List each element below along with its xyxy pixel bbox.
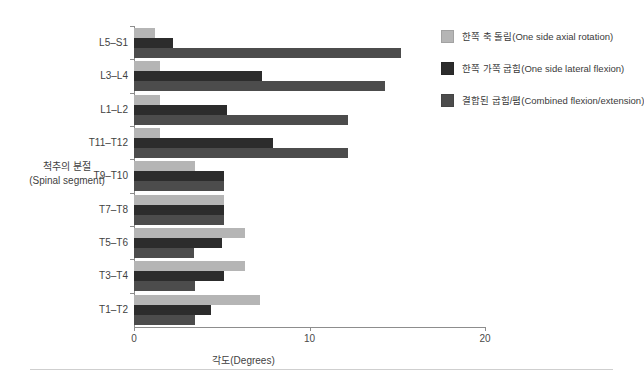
legend-label: 한쪽 축 돌림(One side axial rotation) — [462, 30, 613, 43]
bar — [134, 28, 155, 38]
y-axis-category-label: L1–L2 — [58, 104, 128, 115]
legend-label: 결합된 굽힘/폄(Combined flexion/extension) — [462, 94, 644, 107]
bar — [134, 161, 195, 171]
y-axis-tick — [130, 259, 134, 260]
bar — [134, 295, 260, 305]
bar-group — [134, 95, 429, 128]
legend-item: 한쪽 축 돌림(One side axial rotation) — [441, 30, 641, 43]
y-axis-tick — [130, 126, 134, 127]
bar — [134, 205, 224, 215]
legend-label: 한쪽 가쪽 굽힘(One side lateral flexion) — [462, 62, 624, 75]
bar — [134, 181, 224, 191]
bar-group — [134, 261, 429, 294]
y-axis-category-label: L5–S1 — [58, 37, 128, 48]
bar — [134, 315, 195, 325]
bar — [134, 105, 227, 115]
bar — [134, 115, 348, 125]
y-axis-category-label: T7–T8 — [58, 204, 128, 215]
y-axis-tick — [130, 293, 134, 294]
bar-group — [134, 128, 429, 161]
x-axis-tick-label: 0 — [119, 333, 149, 344]
bar-group — [134, 195, 429, 228]
y-axis-category-label: T3–T4 — [58, 270, 128, 281]
bar — [134, 195, 224, 205]
bar-group — [134, 28, 429, 61]
bar — [134, 238, 222, 248]
x-axis-tick — [134, 327, 135, 331]
bar — [134, 215, 224, 225]
x-axis-tick — [310, 327, 311, 331]
bar — [134, 171, 224, 181]
x-axis-tick-label: 20 — [470, 333, 500, 344]
plot-area — [134, 26, 429, 326]
bar-group — [134, 161, 429, 194]
legend-swatch — [441, 30, 454, 43]
y-axis-tick — [130, 226, 134, 227]
bar-group — [134, 61, 429, 94]
x-axis-title: 각도(Degrees) — [0, 352, 643, 367]
bar — [134, 228, 245, 238]
bottom-divider — [30, 369, 613, 370]
bar — [134, 281, 195, 291]
bar — [134, 271, 224, 281]
x-axis-tick — [485, 327, 486, 331]
bar — [134, 138, 273, 148]
y-axis-tick — [130, 59, 134, 60]
y-axis-category-label: T11–T12 — [58, 137, 128, 148]
bar — [134, 81, 385, 91]
bar — [134, 71, 262, 81]
y-axis-category-label: T5–T6 — [58, 237, 128, 248]
bar — [134, 61, 160, 71]
y-axis-category-label: L3–L4 — [58, 70, 128, 81]
legend-swatch — [441, 62, 454, 75]
legend-item: 한쪽 가쪽 굽힘(One side lateral flexion) — [441, 62, 641, 75]
y-axis-tick — [130, 93, 134, 94]
bar — [134, 48, 401, 58]
y-axis-category-label: T1–T2 — [58, 304, 128, 315]
bar-group — [134, 228, 429, 261]
bar-group — [134, 295, 429, 328]
legend-item: 결합된 굽힘/폄(Combined flexion/extension) — [441, 94, 641, 107]
bar — [134, 38, 173, 48]
y-axis-tick — [130, 26, 134, 27]
bar — [134, 148, 348, 158]
bar — [134, 248, 194, 258]
y-axis-tick — [130, 193, 134, 194]
legend-swatch — [441, 94, 454, 107]
bar — [134, 261, 245, 271]
y-axis-category-label: T9–T10 — [58, 170, 128, 181]
bar — [134, 128, 160, 138]
x-axis-title-text: 각도(Degrees) — [212, 352, 274, 367]
chart-legend: 한쪽 축 돌림(One side axial rotation)한쪽 가쪽 굽힘… — [441, 30, 641, 126]
bar — [134, 95, 160, 105]
y-axis-tick — [130, 159, 134, 160]
x-axis-tick-label: 10 — [295, 333, 325, 344]
bar — [134, 305, 211, 315]
